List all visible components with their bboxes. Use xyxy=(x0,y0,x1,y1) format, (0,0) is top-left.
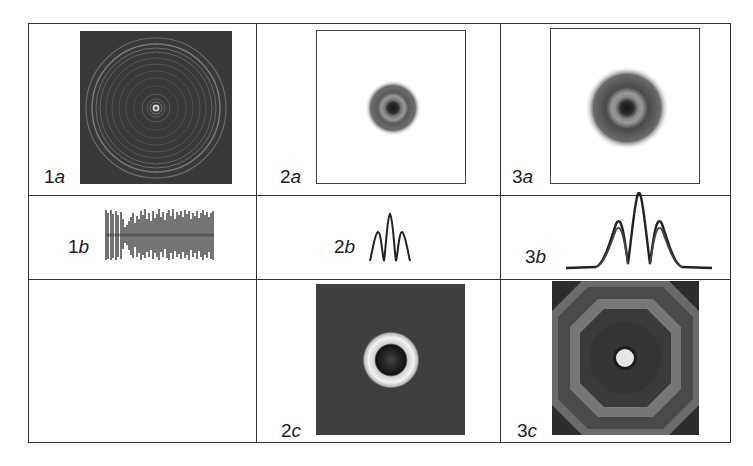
label-3a: 3a xyxy=(512,166,533,188)
label-3b: 3b xyxy=(525,246,546,268)
label-2c: 2c xyxy=(281,420,301,442)
profile-1b-plot xyxy=(104,205,216,263)
label-2b: 2b xyxy=(334,236,355,258)
label-1b: 1b xyxy=(68,236,89,258)
label-3c: 3c xyxy=(517,420,537,442)
profile-2b-plot xyxy=(368,208,414,263)
panel-2a-frame xyxy=(316,30,466,184)
label-2a: 2a xyxy=(280,166,301,188)
panel-2c-ring xyxy=(316,284,465,435)
panel-3a-frame xyxy=(550,28,700,184)
row-divider-2 xyxy=(28,279,731,280)
profile-3b-plot xyxy=(566,192,712,272)
panel-1c-empty xyxy=(30,281,254,441)
panel-3c-octagonal-rings xyxy=(552,281,699,435)
label-1a: 1a xyxy=(44,166,65,188)
column-divider-1 xyxy=(256,23,257,443)
column-divider-2 xyxy=(500,23,501,443)
panel-1a-ring-pattern xyxy=(80,31,232,184)
